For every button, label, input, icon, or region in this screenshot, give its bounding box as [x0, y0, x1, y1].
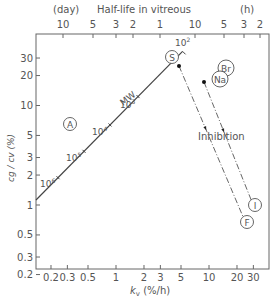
top-axis-unit-left: (day) — [53, 4, 79, 15]
y-tick-label: 30 — [20, 53, 33, 64]
top-tick-label: 2 — [257, 19, 263, 30]
y-axis-ticks: 30201053210.50.30.2 — [17, 53, 40, 281]
top-tick-label: 3 — [113, 19, 119, 30]
inhibition-arrow — [179, 66, 244, 219]
top-axis-ticks: 10532110532 — [57, 19, 264, 38]
top-tick-label: 5 — [221, 19, 227, 30]
top-axis-unit-right: (h) — [240, 4, 254, 15]
top-tick-label: 3 — [241, 19, 247, 30]
x-tick-label: 20 — [231, 272, 244, 283]
start-dot — [177, 64, 181, 68]
y-tick-label: 5 — [27, 130, 33, 141]
y-tick-label: 2 — [27, 170, 33, 181]
y-tick-label: 0.3 — [17, 252, 33, 263]
mw-marker-label: 106 — [40, 177, 55, 189]
x-tick-label: 1 — [113, 272, 119, 283]
top-tick-label: 1 — [157, 19, 163, 30]
top-tick-label: 2 — [130, 19, 136, 30]
x-tick-label: 5 — [178, 272, 184, 283]
x-tick-label: 0.3 — [59, 272, 75, 283]
start-dot — [202, 80, 206, 84]
arrow-head — [203, 126, 206, 130]
chart: (day) Half-life in vitreous (h) 10532110… — [0, 0, 276, 300]
mw-marker-label: 105 — [66, 151, 81, 163]
top-tick-label: 10 — [189, 19, 202, 30]
x-tick-label: 30 — [247, 272, 260, 283]
x-tick-label: 0.2 — [43, 272, 59, 283]
x-tick-label: 0.5 — [80, 272, 96, 283]
top-axis-title: Half-life in vitreous — [97, 4, 191, 15]
x-tick-label: 10 — [203, 272, 216, 283]
y-tick-label: 10 — [20, 100, 33, 111]
y-tick-label: 1 — [27, 200, 33, 211]
x-tick-label: 3 — [157, 272, 163, 283]
y-tick-label: 0.5 — [17, 229, 33, 240]
mw-marker-label: 102 — [175, 36, 190, 48]
top-tick-label: 10 — [57, 19, 70, 30]
point-label: I — [254, 201, 257, 211]
y-tick-label: 3 — [27, 152, 33, 163]
y-axis-label: cg / cv (%) — [6, 134, 16, 182]
point-label: A — [67, 120, 74, 130]
mw-marker-label: 104 — [92, 125, 107, 137]
top-tick-label: 5 — [90, 19, 96, 30]
x-axis-ticks: 0.20.30.51235102030 — [43, 265, 260, 283]
inhibition-label: Inhibition — [198, 131, 245, 142]
x-tick-label: 2 — [141, 272, 147, 283]
point-label: Na — [214, 75, 226, 85]
point-label: S — [169, 53, 175, 63]
y-tick-label: 0.2 — [17, 269, 33, 280]
point-label: F — [244, 218, 249, 228]
x-axis-label: kv (%/h) — [130, 285, 170, 298]
y-tick-label: 20 — [20, 70, 33, 81]
